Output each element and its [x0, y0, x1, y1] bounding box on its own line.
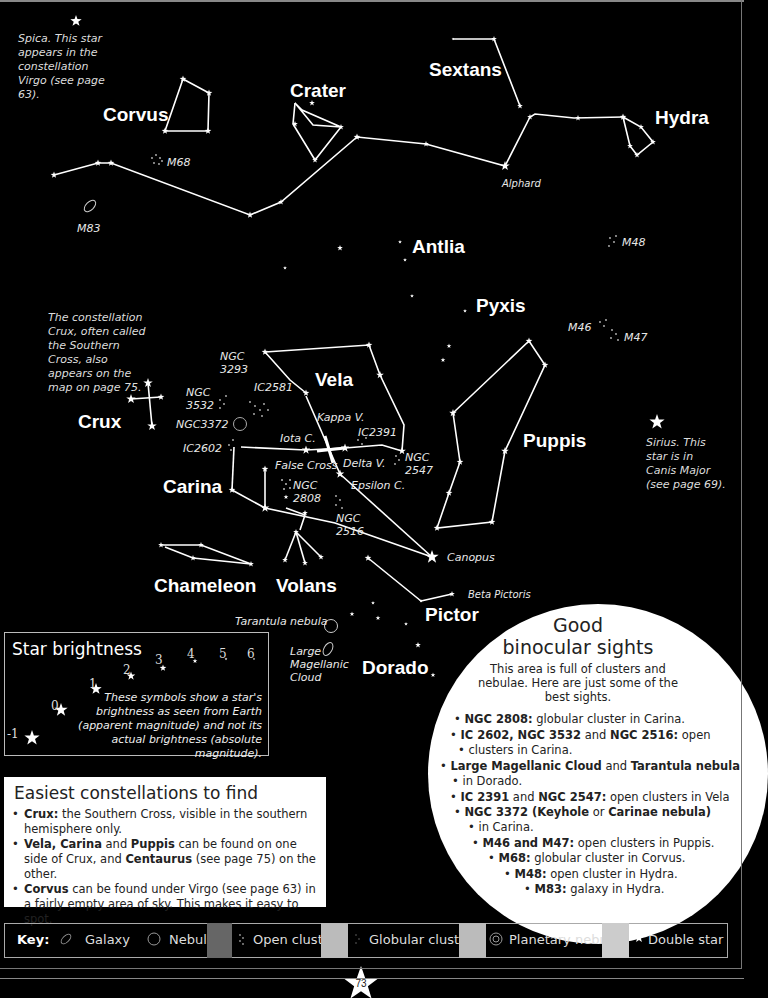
key-label: Key:	[17, 932, 49, 947]
label-vela: Vela	[315, 369, 353, 391]
star-brightness-description: These symbols show a star's brightness a…	[62, 691, 262, 761]
key-nebula: Nebula	[169, 932, 209, 947]
label-ic2581: IC2581	[254, 381, 293, 394]
label-tarantula-nebula: Tarantula nebula	[235, 615, 328, 628]
label-crater: Crater	[290, 80, 346, 102]
label-puppis: Puppis	[523, 430, 586, 452]
label-kappa-vela: Kappa V.	[317, 411, 365, 424]
label-m83: M83	[77, 222, 101, 235]
label-ngc3532: NGC3532	[186, 386, 214, 412]
label-large-magellanic-cloud: LargeMagellanicCloud	[290, 645, 349, 684]
binocular-sights-panel: Good binocular sights This area is full …	[428, 604, 768, 944]
magnitude-label: 3	[155, 653, 163, 667]
page-border-right	[741, 0, 742, 968]
label-ngc2808: NGC2808	[293, 479, 321, 505]
label-carina: Carina	[163, 476, 222, 498]
key-planetary-nebula: Planetary nebula	[509, 932, 605, 947]
label-chameleon: Chameleon	[154, 575, 256, 597]
binocular-item: M68: globular cluster in Corvus.	[488, 851, 685, 866]
binocular-item-cont: clusters in Carina.	[458, 743, 572, 758]
label-m46: M46	[568, 321, 592, 334]
magnitude-label: 1	[89, 677, 97, 691]
label-canopus: Canopus	[447, 551, 495, 564]
easiest-item: Corvus can be found under Virgo (see pag…	[12, 882, 322, 927]
binocular-item: IC 2391 and NGC 2547: open clusters in V…	[450, 790, 729, 805]
binocular-item: M83: galaxy in Hydra.	[524, 882, 664, 897]
binocular-title-line1: Good	[428, 614, 728, 636]
magnitude-label: 6	[247, 647, 255, 661]
label-iota-carinae: Iota C.	[280, 432, 316, 445]
magnitude-label: 0	[51, 699, 59, 713]
note-crux: The constellation Crux, often called the…	[48, 311, 153, 395]
galaxy-icon	[59, 932, 73, 949]
label-alphard: Alphard	[502, 177, 541, 190]
label-ngc2516: NGC2516	[336, 512, 364, 538]
label-sextans: Sextans	[429, 59, 502, 81]
binocular-item: NGC 2808: globular cluster in Carina.	[454, 712, 685, 727]
label-dorado: Dorado	[362, 657, 429, 679]
label-m68: M68	[167, 156, 191, 169]
map-key: Key: Galaxy Nebula Open cluste Globular …	[4, 923, 728, 958]
easiest-item: Vela, Carina and Puppis can be found on …	[12, 837, 322, 882]
planetary-nebula-icon	[489, 932, 503, 949]
binocular-intro: This area is full of clusters and nebula…	[468, 662, 688, 704]
label-m48: M48	[622, 236, 646, 249]
magnitude-label: 2	[123, 663, 131, 677]
open-cluster-icon	[237, 932, 247, 949]
label-hydra: Hydra	[655, 107, 709, 129]
magnitude-label: 5	[219, 647, 227, 661]
binocular-item: NGC 3372 (Keyhole or Carinae nebula)	[454, 805, 711, 820]
star-brightness-title: Star brightness	[12, 639, 142, 659]
key-divider	[602, 923, 629, 958]
double-star-icon	[633, 932, 645, 947]
label-corvus: Corvus	[103, 104, 168, 126]
page-border-top	[0, 0, 744, 2]
label-antlia: Antlia	[412, 236, 465, 258]
label-m47: M47	[624, 331, 648, 344]
key-galaxy: Galaxy	[85, 932, 130, 947]
star-brightness-panel: Star brightness -1 0 1 2 3 4 5 6 These s…	[4, 632, 269, 756]
label-epsilon-carinae: Epsilon C.	[351, 479, 405, 492]
binocular-item-cont: in Dorado.	[452, 774, 522, 789]
binocular-item: M46 and M47: open clusters in Puppis.	[472, 836, 715, 851]
binocular-item: M48: open cluster in Hydra.	[504, 867, 678, 882]
easiest-constellations-panel: Easiest constellations to find Crux: the…	[4, 777, 326, 907]
label-pyxis: Pyxis	[476, 295, 526, 317]
key-divider	[459, 923, 486, 958]
magnitude-label: 4	[187, 647, 195, 661]
label-ngc3372: NGC3372	[176, 418, 228, 431]
note-spica: Spica. This star appears in the constell…	[18, 32, 118, 102]
key-divider	[321, 923, 348, 958]
label-delta-vela: Delta V.	[343, 457, 386, 470]
label-ngc3293: NGC3293	[220, 350, 248, 376]
easiest-item: Crux: the Southern Cross, visible in the…	[12, 807, 322, 837]
label-ngc2547: NGC2547	[405, 451, 433, 477]
key-double-star: Double star	[648, 932, 723, 947]
key-globular-cluster: Globular cluste	[369, 932, 459, 947]
page-number: 73	[343, 978, 379, 989]
binocular-item: Large Magellanic Cloud and Tarantula neb…	[440, 759, 740, 774]
label-beta-pictoris: Beta Pictoris	[468, 588, 531, 601]
key-divider	[207, 923, 232, 958]
easiest-title: Easiest constellations to find	[14, 783, 258, 803]
label-crux: Crux	[78, 411, 121, 433]
label-ic2602: IC2602	[183, 442, 222, 455]
nebula-icon	[147, 932, 161, 949]
note-sirius: Sirius. This star is in Canis Major (see…	[646, 436, 726, 492]
label-ic2391: IC2391	[358, 426, 397, 439]
binocular-item: IC 2602, NGC 3532 and NGC 2516: open	[450, 728, 711, 743]
binocular-title-line2: binocular sights	[428, 636, 728, 658]
label-volans: Volans	[276, 575, 337, 597]
globular-cluster-icon	[353, 932, 363, 949]
binocular-item-cont: in Carina.	[468, 820, 534, 835]
magnitude-label: -1	[7, 727, 19, 741]
key-open-cluster: Open cluste	[253, 932, 321, 947]
page-border-bottom	[0, 968, 742, 969]
label-false-cross: False Cross	[275, 459, 338, 472]
